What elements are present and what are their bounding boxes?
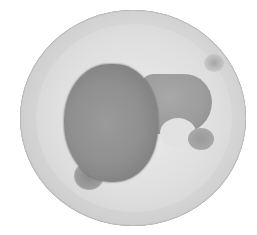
chorion-spot <box>204 54 224 72</box>
micrograph <box>0 0 257 235</box>
embryo-tail-tip <box>188 128 214 150</box>
yolk-sac <box>64 64 158 182</box>
